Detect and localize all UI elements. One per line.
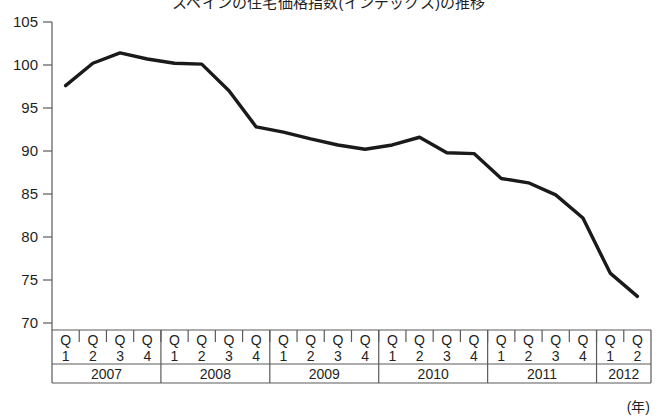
x-axis-quarter-number: 4 bbox=[579, 348, 587, 364]
y-axis-tick-label: 100 bbox=[13, 56, 38, 73]
x-axis-unit-label: (年) bbox=[627, 399, 650, 415]
y-axis-tick-label: 85 bbox=[21, 185, 38, 202]
x-axis-quarter-number: 1 bbox=[171, 348, 179, 364]
x-axis-quarter-label: Q bbox=[632, 332, 643, 348]
x-axis-quarter-number: 4 bbox=[143, 348, 151, 364]
x-axis-quarter-label: Q bbox=[251, 332, 262, 348]
x-axis-quarter-label: Q bbox=[224, 332, 235, 348]
y-axis-ticks: 105100959085807570 bbox=[13, 13, 52, 331]
x-axis-year-label: 2010 bbox=[418, 366, 449, 382]
x-axis-quarter-label: Q bbox=[577, 332, 588, 348]
x-axis-quarter-label: Q bbox=[169, 332, 180, 348]
x-axis-year-label: 2007 bbox=[91, 366, 122, 382]
x-axis-quarter-number: 3 bbox=[225, 348, 233, 364]
x-axis-quarter-number: 4 bbox=[470, 348, 478, 364]
x-axis-quarter-label: Q bbox=[496, 332, 507, 348]
y-axis-tick-label: 70 bbox=[21, 314, 38, 331]
x-axis-quarter-number: 2 bbox=[198, 348, 206, 364]
y-axis-tick-label: 75 bbox=[21, 271, 38, 288]
x-axis-quarter-number: 3 bbox=[116, 348, 124, 364]
x-axis-quarter-label: Q bbox=[87, 332, 98, 348]
x-axis-quarter-label: Q bbox=[305, 332, 316, 348]
x-axis-quarter-label: Q bbox=[550, 332, 561, 348]
y-axis-tick-label: 105 bbox=[13, 13, 38, 30]
x-axis-year-label: 2011 bbox=[527, 366, 557, 382]
x-axis-quarter-label: Q bbox=[523, 332, 534, 348]
x-axis-quarter-label: Q bbox=[414, 332, 425, 348]
x-axis-year-label: 2012 bbox=[608, 366, 639, 382]
x-axis-quarter-label: Q bbox=[605, 332, 616, 348]
x-axis-quarter-label: Q bbox=[332, 332, 343, 348]
x-axis-quarter-number: 1 bbox=[280, 348, 288, 364]
x-axis-quarter-number: 1 bbox=[497, 348, 505, 364]
x-axis-quarter-label: Q bbox=[441, 332, 452, 348]
x-axis-quarter-label: Q bbox=[60, 332, 71, 348]
x-axis-quarter-label: Q bbox=[469, 332, 480, 348]
x-axis-quarter-number: 3 bbox=[443, 348, 451, 364]
x-axis-quarter-label: Q bbox=[387, 332, 398, 348]
x-axis-quarter-number: 2 bbox=[89, 348, 97, 364]
x-axis-year-label: 2008 bbox=[200, 366, 231, 382]
data-series bbox=[66, 53, 638, 296]
y-axis-tick-label: 80 bbox=[21, 228, 38, 245]
x-axis-quarter-number: 1 bbox=[606, 348, 614, 364]
x-axis-quarter-number: 3 bbox=[552, 348, 560, 364]
x-axis-quarter-number: 4 bbox=[252, 348, 260, 364]
x-axis-quarter-number: 4 bbox=[361, 348, 369, 364]
y-axis-tick-label: 95 bbox=[21, 99, 38, 116]
x-axis-quarter-number: 2 bbox=[633, 348, 641, 364]
x-axis-quarter-label: Q bbox=[142, 332, 153, 348]
x-axis-quarter-label: Q bbox=[278, 332, 289, 348]
chart-page: スペインの住宅価格指数(インデックス)の推移 10510095908580757… bbox=[0, 0, 658, 418]
x-axis-quarter-number: 2 bbox=[416, 348, 424, 364]
x-axis-quarter-number: 1 bbox=[62, 348, 70, 364]
x-axis-quarter-number: 3 bbox=[334, 348, 342, 364]
x-axis-quarter-number: 2 bbox=[525, 348, 533, 364]
housing-price-index-line bbox=[66, 53, 638, 296]
line-chart: 105100959085807570 Q1Q2Q3Q4Q1Q2Q3Q4Q1Q2Q… bbox=[0, 0, 658, 418]
x-axis-quarter-label: Q bbox=[115, 332, 126, 348]
y-axis-tick-label: 90 bbox=[21, 142, 38, 159]
x-axis-quarter-label: Q bbox=[360, 332, 371, 348]
x-axis-quarter-label: Q bbox=[196, 332, 207, 348]
x-axis-quarter-number: 2 bbox=[307, 348, 315, 364]
x-axis-quarter-number: 1 bbox=[388, 348, 396, 364]
x-axis-year-label: 2009 bbox=[309, 366, 340, 382]
